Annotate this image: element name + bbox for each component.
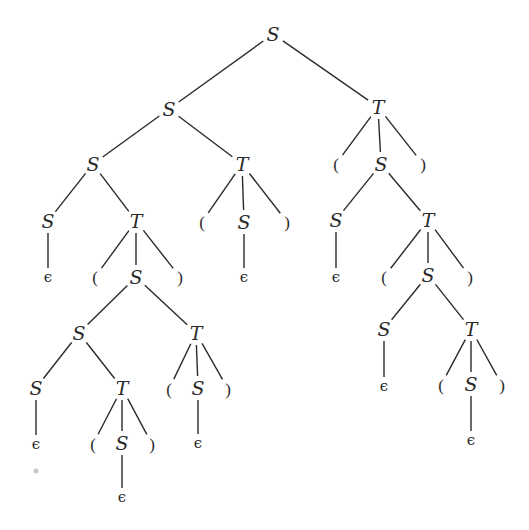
node-epsilon: ϵ [467,433,475,448]
tree-edge [179,116,233,157]
tree-edge [344,173,374,210]
node-close-paren: ) [467,269,473,286]
node-s: S [237,213,250,232]
node-s: S [266,25,279,44]
tree-edge [446,340,465,376]
node-s: S [191,379,204,398]
node-epsilon: ϵ [32,437,40,452]
node-open-paren: ( [438,377,444,394]
tree-edge [55,173,85,211]
node-epsilon: ϵ [380,379,388,394]
tree-edge [343,117,371,155]
node-epsilon: ϵ [332,270,340,285]
node-close-paren: ) [177,269,183,286]
tree-edge [174,344,191,379]
tree-edge [435,230,463,268]
tree-edge [98,399,116,435]
node-s: S [421,266,434,285]
node-t: T [465,320,478,339]
tree-edge [379,119,381,152]
node-close-paren: ) [149,436,155,453]
tree-edge [103,116,160,157]
node-open-paren: ( [90,436,96,453]
gray-dot-artifact [34,469,39,474]
tree-edge [208,174,235,213]
tree-edge [145,285,187,325]
node-epsilon: ϵ [240,270,248,285]
node-s: S [29,379,42,398]
tree-edge [100,174,129,212]
tree-edges [0,0,529,530]
node-epsilon: ϵ [118,490,126,505]
node-s: S [162,100,175,119]
tree-edge [436,284,464,319]
tree-edge [143,230,173,268]
node-t: T [236,155,249,174]
tree-edge [249,174,280,214]
tree-edge [196,345,197,376]
node-s: S [374,155,387,174]
node-s: S [129,268,142,287]
node-s: S [377,320,390,339]
node-epsilon: ϵ [194,436,202,451]
node-t: T [190,324,203,343]
node-open-paren: ( [381,269,387,286]
node-open-paren: ( [333,156,339,173]
node-close-paren: ) [499,377,505,394]
tree-edge [88,285,128,324]
parse-tree-diagram: SSTST(S)ST(S)STϵ(S)ϵϵ(S)STSTST(S)ϵ(S)ϵ(S… [0,0,529,530]
node-s: S [86,155,99,174]
tree-edge [86,343,114,379]
tree-edge [389,173,421,211]
tree-edge [128,399,147,435]
tree-edge [242,176,243,210]
node-s: S [464,375,477,394]
tree-edge [391,230,421,269]
tree-edge [385,116,416,155]
node-close-paren: ) [420,156,426,173]
tree-edge [43,343,71,379]
node-t: T [130,212,143,231]
node-t: T [372,98,385,117]
node-t: T [422,211,435,230]
node-open-paren: ( [199,214,205,231]
node-close-paren: ) [225,381,231,398]
tree-edge [477,340,497,376]
tree-edge [202,343,223,379]
node-s: S [329,211,342,230]
tree-edge [392,284,421,319]
tree-edge [283,41,368,100]
node-open-paren: ( [92,269,98,286]
tree-edge [102,231,129,268]
node-s: S [72,324,85,343]
node-close-paren: ) [284,214,290,231]
node-s: S [41,212,54,231]
node-epsilon: ϵ [44,270,52,285]
node-s: S [115,434,128,453]
node-open-paren: ( [166,381,172,398]
node-t: T [116,379,129,398]
tree-edge [179,41,264,102]
